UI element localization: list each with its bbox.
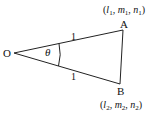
coord-close: )	[139, 99, 142, 110]
coordinates-b: (l2, m2, n2)	[100, 100, 142, 112]
angle-label-theta: θ	[45, 47, 50, 58]
segment-ob	[14, 53, 120, 84]
point-label-b: B	[117, 86, 124, 97]
angle-arc	[59, 44, 61, 67]
coord-close: )	[142, 4, 145, 15]
edge-label-ob: 1	[71, 72, 76, 82]
coord-m: m	[118, 4, 125, 15]
edge-label-oa: 1	[71, 32, 76, 42]
coordinates-a: (l1, m1, n1)	[103, 5, 145, 17]
segment-oa	[14, 30, 123, 53]
segment-ab	[120, 30, 123, 84]
diagram-canvas	[0, 0, 160, 116]
point-label-o: O	[3, 48, 11, 59]
point-label-a: A	[120, 19, 128, 30]
coord-m: m	[115, 99, 122, 110]
